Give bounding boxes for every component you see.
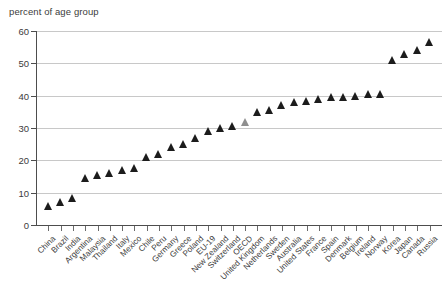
x-axis-tick xyxy=(73,226,74,231)
y-axis-tick-label: 40 xyxy=(3,90,29,101)
data-point-marker xyxy=(130,164,138,172)
x-axis-tick xyxy=(159,226,160,231)
data-point-marker xyxy=(327,93,335,101)
data-point-marker xyxy=(167,143,175,151)
y-axis-line xyxy=(36,31,37,226)
data-point-marker xyxy=(376,90,384,98)
y-axis-tick xyxy=(31,193,36,194)
x-axis-tick xyxy=(134,226,135,231)
data-point-marker xyxy=(339,93,347,101)
gridline xyxy=(36,31,442,32)
y-axis-tick-label: 0 xyxy=(3,220,29,231)
x-axis-tick xyxy=(356,226,357,231)
y-axis-tick-label: 60 xyxy=(3,26,29,37)
data-point-marker xyxy=(154,150,162,158)
data-point-marker xyxy=(302,97,310,105)
data-point-marker xyxy=(388,56,396,64)
data-point-marker xyxy=(400,50,408,58)
x-axis-tick xyxy=(393,226,394,231)
x-axis-tick xyxy=(221,226,222,231)
chart-container: percent of age group 0102030405060 China… xyxy=(0,0,444,305)
x-axis-tick xyxy=(171,226,172,231)
data-point-marker xyxy=(228,122,236,130)
x-axis-tick xyxy=(122,226,123,231)
data-point-marker xyxy=(81,174,89,182)
data-point-marker xyxy=(241,118,249,126)
x-axis-tick xyxy=(430,226,431,231)
x-axis-tick xyxy=(196,226,197,231)
x-axis-tick xyxy=(110,226,111,231)
data-point-marker xyxy=(314,95,322,103)
data-point-marker xyxy=(118,166,126,174)
data-point-marker xyxy=(179,140,187,148)
x-axis-tick xyxy=(147,226,148,231)
data-point-marker xyxy=(277,101,285,109)
data-point-marker xyxy=(142,153,150,161)
data-point-marker xyxy=(93,171,101,179)
x-axis-tick xyxy=(307,226,308,231)
data-point-marker xyxy=(364,90,372,98)
y-axis-title: percent of age group xyxy=(9,6,99,17)
gridline xyxy=(36,128,442,129)
x-axis-tick xyxy=(368,226,369,231)
x-axis-tick xyxy=(319,226,320,231)
x-axis-tick xyxy=(98,226,99,231)
x-axis-tick xyxy=(61,226,62,231)
data-point-marker xyxy=(191,134,199,142)
x-axis-tick xyxy=(245,226,246,231)
data-point-marker xyxy=(216,124,224,132)
x-axis-tick xyxy=(85,226,86,231)
y-axis-tick xyxy=(31,63,36,64)
x-axis-tick xyxy=(282,226,283,231)
data-point-marker xyxy=(265,106,273,114)
x-axis-tick xyxy=(380,226,381,231)
data-point-marker xyxy=(204,127,212,135)
data-point-marker xyxy=(290,98,298,106)
y-axis-tick xyxy=(31,31,36,32)
data-point-marker xyxy=(413,46,421,54)
data-point-marker xyxy=(56,198,64,206)
x-axis-tick xyxy=(184,226,185,231)
x-axis-tick xyxy=(405,226,406,231)
x-axis-tick xyxy=(208,226,209,231)
y-axis-tick xyxy=(31,225,36,226)
y-axis-tick xyxy=(31,160,36,161)
gridline xyxy=(36,160,442,161)
x-axis-tick xyxy=(257,226,258,231)
data-point-marker xyxy=(253,108,261,116)
x-axis-tick xyxy=(270,226,271,231)
data-point-marker xyxy=(105,169,113,177)
y-axis-tick xyxy=(31,96,36,97)
data-point-marker xyxy=(425,38,433,46)
y-axis-tick-label: 30 xyxy=(3,123,29,134)
data-point-marker xyxy=(44,202,52,210)
x-axis-tick xyxy=(48,226,49,231)
plot-area xyxy=(36,31,442,225)
y-axis-tick xyxy=(31,128,36,129)
data-point-marker xyxy=(351,92,359,100)
y-axis-tick-label: 20 xyxy=(3,155,29,166)
x-axis-tick xyxy=(344,226,345,231)
y-axis-tick-label: 50 xyxy=(3,58,29,69)
data-point-marker xyxy=(68,194,76,202)
x-axis-tick xyxy=(294,226,295,231)
gridline xyxy=(36,63,442,64)
y-axis-tick-label: 10 xyxy=(3,187,29,198)
x-axis-tick xyxy=(331,226,332,231)
gridline xyxy=(36,193,442,194)
x-axis-tick xyxy=(417,226,418,231)
x-axis-tick xyxy=(233,226,234,231)
